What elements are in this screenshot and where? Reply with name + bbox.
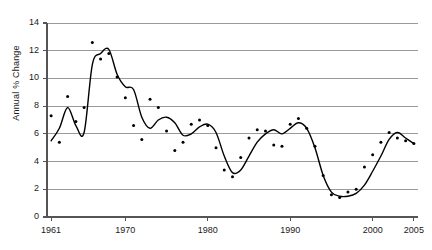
data-point — [198, 119, 201, 122]
data-point — [140, 138, 143, 141]
data-point — [74, 120, 77, 123]
data-point — [116, 76, 119, 79]
x-tick-label: 2005 — [390, 225, 432, 235]
data-point — [371, 153, 374, 156]
data-point — [330, 193, 333, 196]
data-point — [355, 188, 358, 191]
data-point — [404, 139, 407, 142]
data-point — [190, 123, 193, 126]
data-point — [91, 41, 94, 44]
data-point — [66, 95, 69, 98]
y-tick-label: 14 — [11, 17, 39, 27]
data-point — [379, 141, 382, 144]
data-point — [239, 156, 242, 159]
data-point — [346, 191, 349, 194]
data-point — [173, 149, 176, 152]
chart-plot-area — [0, 0, 432, 250]
data-point — [289, 123, 292, 126]
data-point — [149, 98, 152, 101]
data-point — [124, 96, 127, 99]
y-tick-label: 8 — [11, 100, 39, 110]
data-point — [272, 143, 275, 146]
x-tick-label: 1970 — [101, 225, 149, 235]
y-tick-label: 4 — [11, 156, 39, 166]
data-point — [58, 141, 61, 144]
data-point — [247, 137, 250, 140]
scatter-point-series — [50, 41, 416, 199]
data-point — [231, 175, 234, 178]
data-point — [157, 106, 160, 109]
chart-container: Annual % Change 02468101214 196119701980… — [0, 0, 432, 250]
data-point — [305, 127, 308, 130]
data-point — [412, 142, 415, 145]
data-point — [223, 168, 226, 171]
x-tick-label: 1990 — [266, 225, 314, 235]
data-point — [83, 106, 86, 109]
data-point — [297, 117, 300, 120]
y-tick-label: 10 — [11, 72, 39, 82]
data-point — [363, 166, 366, 169]
data-point — [107, 52, 110, 55]
x-tick-label: 1980 — [184, 225, 232, 235]
data-point — [182, 141, 185, 144]
data-point — [313, 145, 316, 148]
y-axis-ticks — [43, 23, 47, 217]
y-tick-label: 2 — [11, 183, 39, 193]
data-point — [338, 196, 341, 199]
data-point — [322, 174, 325, 177]
data-point — [256, 128, 259, 131]
y-tick-label: 0 — [11, 211, 39, 221]
data-point — [280, 145, 283, 148]
data-point — [99, 58, 102, 61]
data-point — [264, 130, 267, 133]
data-point — [206, 124, 209, 127]
trend-line-series — [51, 48, 414, 196]
x-tick-label: 1961 — [27, 225, 75, 235]
data-point — [388, 131, 391, 134]
y-tick-label: 12 — [11, 45, 39, 55]
data-point — [50, 114, 53, 117]
data-point — [165, 130, 168, 133]
data-point — [215, 146, 218, 149]
data-point — [132, 124, 135, 127]
x-axis-ticks — [51, 217, 414, 221]
y-tick-label: 6 — [11, 128, 39, 138]
data-point — [396, 137, 399, 140]
